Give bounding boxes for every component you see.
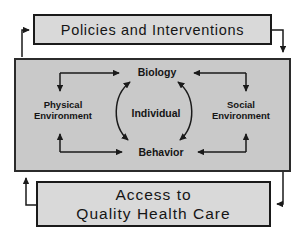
access-label-line2: Quality Health Care (76, 205, 230, 222)
access-to-quality-health-care-box: Access to Quality Health Care (36, 181, 271, 227)
access-label-line1: Access to (115, 186, 191, 203)
physical-environment-node: Physical Environment (28, 99, 98, 121)
access-label: Access to Quality Health Care (76, 185, 230, 223)
policies-and-interventions-label: Policies and Interventions (61, 22, 244, 38)
physical-environment-line1: Physical (44, 99, 83, 110)
biology-node: Biology (127, 67, 187, 78)
social-environment-line1: Social (227, 99, 255, 110)
arrow-core-to-policies (22, 30, 29, 57)
arrow-access-to-core (26, 178, 36, 205)
arrow-core-to-access (277, 172, 283, 204)
behavior-node: Behavior (121, 147, 201, 158)
policies-and-interventions-box: Policies and Interventions (33, 14, 272, 45)
social-environment-node: Social Environment (206, 99, 276, 121)
physical-environment-line2: Environment (34, 110, 92, 121)
arrow-policies-to-core (272, 30, 283, 52)
social-environment-line2: Environment (212, 110, 270, 121)
determinants-of-health-diagram: Policies and Interventions Access to Qua… (0, 0, 306, 243)
individual-node: Individual (116, 108, 196, 119)
